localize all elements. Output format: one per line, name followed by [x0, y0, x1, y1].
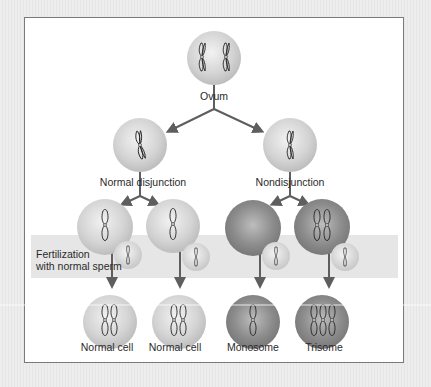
- ovum-label: Ovum: [200, 90, 228, 102]
- nondisjunction-diagram: Ovum Normal disjunction Nondisjunction: [0, 0, 431, 387]
- nondisjunction-label: Nondisjunction: [256, 176, 325, 188]
- outcome-label-3: Monosome: [227, 341, 279, 353]
- fertilization-label-line1: Fertilization: [36, 248, 90, 260]
- fertilization-label-line2: with normal sperm: [35, 260, 122, 272]
- nondisjunction-cell: [263, 118, 317, 172]
- normal-disjunction-label: Normal disjunction: [100, 176, 187, 188]
- outcome-label-4: Trisome: [305, 341, 343, 353]
- outcome-label-1: Normal cell: [81, 341, 134, 353]
- ovum-cell: [187, 31, 241, 85]
- outcome-label-2: Normal cell: [149, 341, 202, 353]
- normal-disjunction-cell: [113, 118, 167, 172]
